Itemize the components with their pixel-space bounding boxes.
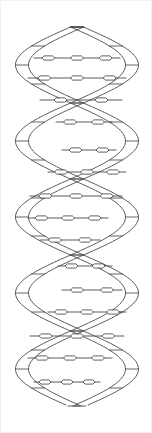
basepair-glyph: [71, 288, 84, 292]
basepair-glyph: [39, 194, 52, 198]
basepair-glyph: [83, 380, 95, 384]
basepair-glyph: [61, 380, 73, 384]
basepair-glyph: [55, 310, 68, 314]
basepair-glyph: [99, 56, 112, 60]
dna-helix-figure: [0, 0, 152, 433]
basepair-glyph: [100, 194, 113, 198]
basepair-glyph: [71, 76, 84, 80]
basepair-glyph: [107, 170, 120, 174]
basepair-glyph: [65, 264, 78, 268]
basepair-glyph: [103, 76, 116, 80]
basepair-glyph: [36, 356, 49, 360]
basepair-glyph: [70, 194, 83, 198]
ribbon-strut-layer: [16, 27, 139, 406]
basepair-glyph: [64, 120, 77, 124]
basepair-glyph: [101, 288, 114, 292]
basepair-glyph: [35, 216, 48, 220]
basepair-glyph: [39, 334, 52, 338]
basepair-glyph: [95, 98, 108, 102]
basepair-glyph: [96, 148, 109, 152]
basepair-glyph-layer: [35, 56, 120, 384]
basepair-glyph: [69, 148, 82, 152]
basepair-glyph: [107, 310, 120, 314]
basepair-glyph: [71, 334, 84, 338]
dna-helix-illustration: [0, 0, 152, 433]
basepair-glyph: [92, 120, 105, 124]
basepair-glyph: [49, 238, 62, 242]
basepair-glyph: [81, 170, 94, 174]
basepair-glyph: [55, 170, 68, 174]
basepair-glyph: [42, 56, 55, 60]
basepair-glyph: [92, 264, 105, 268]
basepair-glyph: [81, 310, 94, 314]
basepair-glyph: [102, 334, 115, 338]
basepair-glyph: [54, 98, 67, 102]
basepair-glyph: [71, 56, 84, 60]
basepair-glyph: [79, 238, 92, 242]
basepair-glyph: [92, 356, 105, 360]
basepair-glyph: [38, 76, 51, 80]
basepair-glyph: [88, 216, 101, 220]
basepair-glyph: [39, 380, 51, 384]
basepair-glyph: [62, 216, 75, 220]
basepair-glyph: [64, 356, 77, 360]
